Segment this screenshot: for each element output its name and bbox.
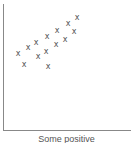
data-point-marker: x xyxy=(26,44,31,52)
data-point-marker: x xyxy=(36,53,41,61)
data-point-marker: x xyxy=(46,63,51,71)
data-point-marker: x xyxy=(55,27,60,35)
data-point-marker: x xyxy=(45,33,50,41)
data-point-marker: x xyxy=(75,14,80,22)
chart-caption: Some positive xyxy=(0,134,133,143)
x-axis xyxy=(3,130,131,131)
data-point-marker: x xyxy=(63,36,68,44)
y-axis xyxy=(3,4,4,131)
data-point-marker: x xyxy=(66,20,71,28)
data-point-marker: x xyxy=(44,48,49,56)
data-point-marker: x xyxy=(22,61,27,69)
data-point-marker: x xyxy=(34,39,39,47)
data-point-marker: x xyxy=(16,50,21,58)
data-point-marker: x xyxy=(54,41,59,49)
data-point-marker: x xyxy=(72,28,77,36)
